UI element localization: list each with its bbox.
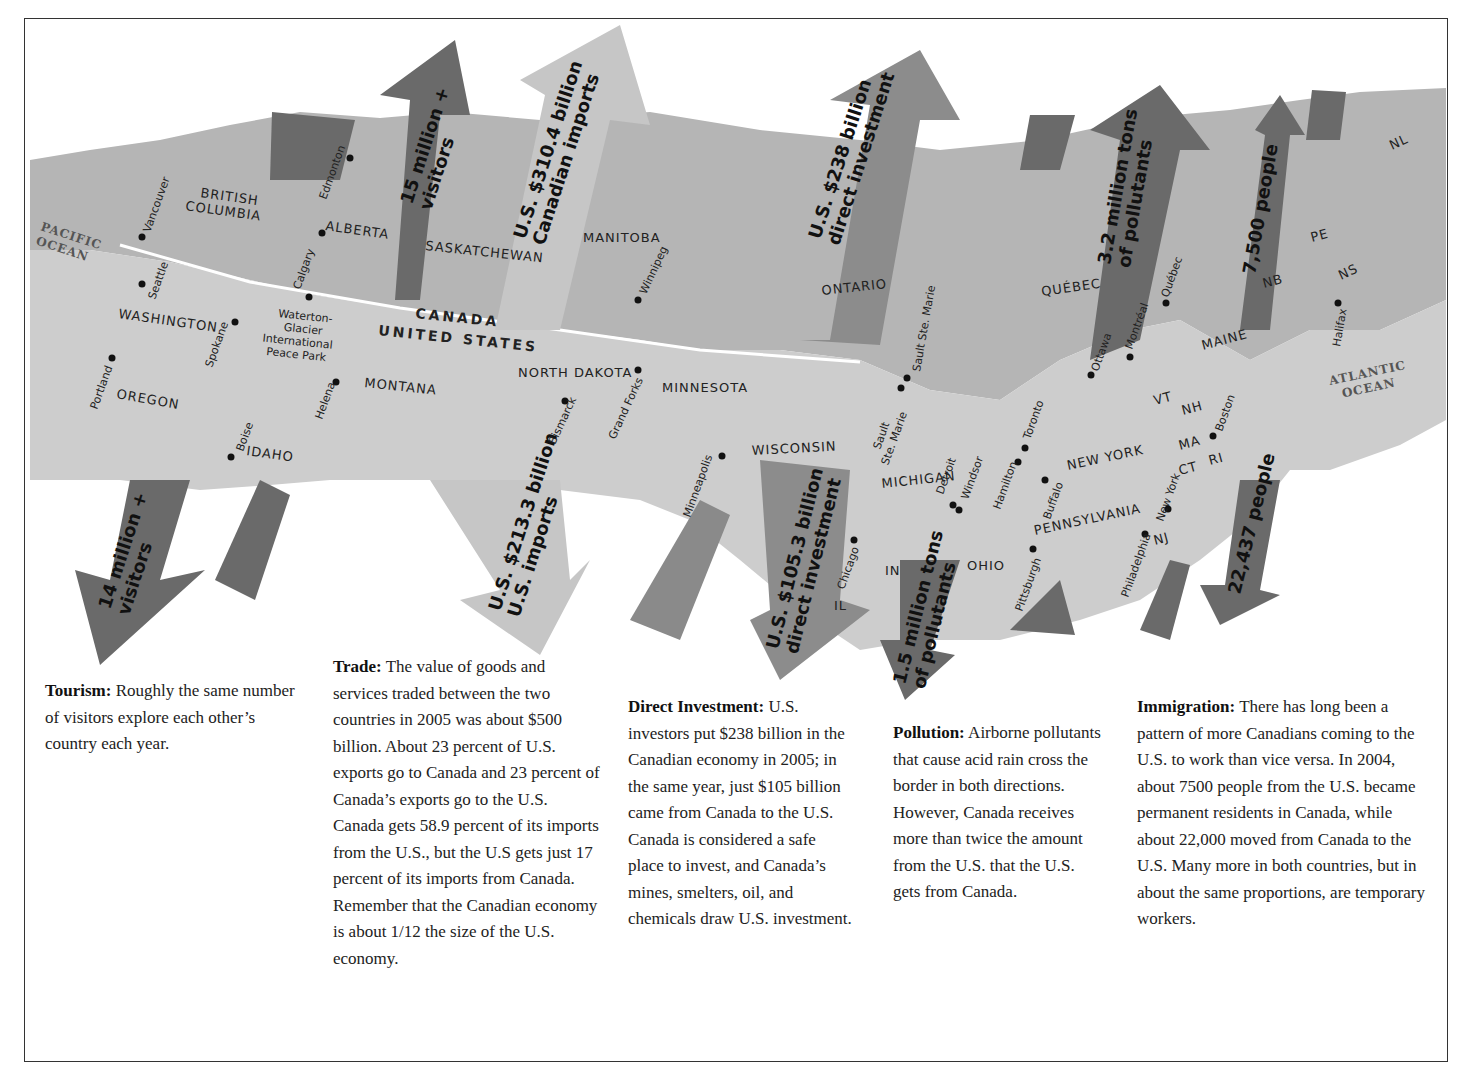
- caption-body: The value of goods and services traded b…: [333, 657, 600, 968]
- arrow-tail: [1306, 90, 1346, 140]
- region-manitoba: MANITOBA: [583, 230, 661, 245]
- caption-title: Tourism:: [45, 681, 111, 700]
- arrow-tail: [215, 480, 290, 600]
- caption-tourism: Tourism: Roughly the same number of visi…: [45, 678, 300, 758]
- caption-title: Pollution:: [893, 723, 965, 742]
- caption-title: Direct Investment:: [628, 697, 764, 716]
- caption-pollution: Pollution: Airborne pollutants that caus…: [893, 720, 1103, 906]
- caption-title: Trade:: [333, 657, 382, 676]
- caption-body: U.S. investors put $238 billion in the C…: [628, 697, 852, 928]
- caption-immigration: Immigration: There has long been a patte…: [1137, 694, 1427, 933]
- region-north-dakota: NORTH DAKOTA: [518, 365, 632, 380]
- caption-body: Airborne pollutants that cause acid rain…: [893, 723, 1101, 901]
- caption-investment: Direct Investment: U.S. investors put $2…: [628, 694, 853, 933]
- caption-trade: Trade: The value of goods and services t…: [333, 654, 603, 972]
- region-il: IL: [834, 598, 847, 613]
- region-minnesota: MINNESOTA: [662, 380, 748, 395]
- region-in: IN: [885, 563, 901, 578]
- caption-title: Immigration:: [1137, 697, 1235, 716]
- arrow-tail: [630, 500, 730, 640]
- caption-body: There has long been a pattern of more Ca…: [1137, 697, 1425, 928]
- region-ohio: OHIO: [967, 558, 1005, 573]
